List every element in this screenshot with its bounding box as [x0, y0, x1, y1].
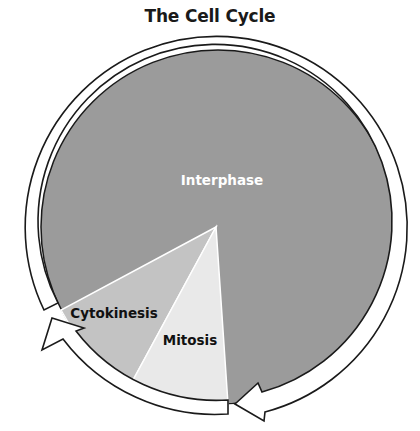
mitosis-label: Mitosis: [163, 332, 218, 348]
cytokinesis-label: Cytokinesis: [70, 305, 158, 321]
interphase-label: Interphase: [181, 172, 263, 188]
cell-cycle-diagram: Interphase Cytokinesis Mitosis: [0, 0, 420, 431]
